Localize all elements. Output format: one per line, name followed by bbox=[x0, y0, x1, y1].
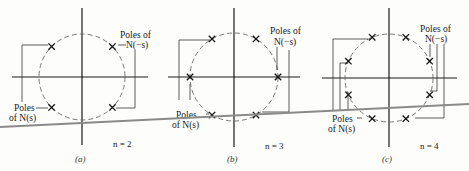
pole-figure-svg: Poles of N(−s) Poles of N(s) n = 2 (a) P… bbox=[0, 0, 469, 171]
label-nms-1: Poles of bbox=[270, 26, 302, 36]
caption: (a) bbox=[75, 154, 86, 164]
label-nms-2: N(−s) bbox=[425, 34, 447, 45]
butterworth-pole-diagram: Poles of N(−s) Poles of N(s) n = 2 (a) P… bbox=[0, 0, 469, 171]
label-nms-1: Poles of bbox=[120, 30, 152, 40]
pole-x-icon bbox=[48, 104, 54, 110]
label-nms-2: N(−s) bbox=[274, 37, 296, 48]
leader-ns bbox=[22, 45, 48, 102]
leader-ns bbox=[179, 40, 210, 100]
pole-x-icon bbox=[369, 34, 375, 40]
label-ns-2: of N(s) bbox=[172, 120, 199, 131]
pole-x-icon bbox=[345, 58, 351, 64]
pole-x-icon bbox=[426, 92, 432, 98]
pole-x-icon bbox=[209, 36, 215, 42]
pole-x-icon bbox=[426, 58, 432, 64]
leader-nms-bottom bbox=[116, 50, 135, 108]
pole-x-icon bbox=[253, 36, 259, 42]
leader-ns-mid bbox=[340, 63, 346, 110]
panel-a: Poles of N(−s) Poles of N(s) n = 2 (a) bbox=[9, 8, 152, 164]
label-ns-1: Poles bbox=[14, 103, 35, 113]
label-nms-1: Poles of bbox=[420, 24, 452, 34]
label-ns-2: of N(s) bbox=[9, 113, 36, 124]
pole-x-icon bbox=[48, 43, 54, 49]
n-label: n = 4 bbox=[420, 141, 439, 151]
panel-c: Poles of N(−s) Poles of N(s) n = 4 (c) bbox=[322, 8, 457, 164]
n-label: n = 3 bbox=[265, 141, 284, 151]
pole-x-icon bbox=[403, 115, 409, 121]
leader-nms-2 bbox=[430, 44, 437, 91]
label-ns-1: Poles bbox=[332, 114, 353, 124]
caption: (b) bbox=[227, 154, 238, 164]
panel-b: Poles of N(−s) Poles of N(s) n = 3 (b) bbox=[168, 8, 302, 164]
label-nms-2: N(−s) bbox=[126, 40, 148, 51]
pole-x-icon bbox=[109, 43, 115, 49]
pole-x-icon bbox=[369, 115, 375, 121]
leader-nms-bottom bbox=[262, 50, 289, 112]
label-ns-2: of N(s) bbox=[328, 124, 355, 135]
pole-x-icon bbox=[403, 34, 409, 40]
n-label: n = 2 bbox=[113, 139, 132, 149]
pole-x-icon bbox=[109, 104, 115, 110]
caption: (c) bbox=[382, 154, 392, 164]
